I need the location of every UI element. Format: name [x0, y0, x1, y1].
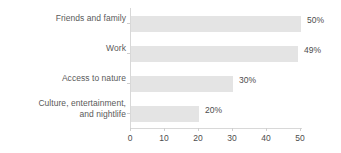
y-axis-tick: [127, 83, 130, 84]
y-axis-tick: [127, 113, 130, 114]
x-axis-tick-label: 10: [149, 133, 179, 144]
plot-area: Friends and family 50% Work 49% Access t…: [0, 0, 341, 153]
bar-row: Friends and family 50%: [0, 8, 341, 38]
bar-row: Culture, entertainment, and nightlife 20…: [0, 98, 341, 128]
x-axis-tick-label: 30: [217, 133, 247, 144]
bar-value-label: 30%: [239, 75, 256, 86]
x-axis-tick-label: 40: [251, 133, 281, 144]
x-axis-tick-mark: [232, 128, 233, 131]
x-axis-ticks: 0 10 20 30 40 50: [0, 128, 341, 153]
x-axis-tick-mark: [130, 128, 131, 131]
bar-value-label: 20%: [205, 105, 222, 116]
x-axis-tick-label: 50: [285, 133, 315, 144]
category-label: Culture, entertainment, and nightlife: [0, 98, 126, 119]
bar-row: Work 49%: [0, 38, 341, 68]
bar: [131, 76, 233, 92]
category-label: Friends and family: [0, 13, 126, 24]
bar-row: Access to nature 30%: [0, 68, 341, 98]
bar-value-label: 50%: [307, 15, 324, 26]
category-label: Work: [0, 43, 126, 54]
bar: [131, 16, 301, 32]
category-label-line1: Culture, entertainment,: [0, 98, 126, 109]
category-label-line1: Work: [0, 43, 126, 54]
category-label: Access to nature: [0, 73, 126, 84]
bar-value-label: 49%: [304, 45, 321, 56]
y-axis-tick: [127, 53, 130, 54]
x-axis-tick-mark: [198, 128, 199, 131]
x-axis-tick-mark: [266, 128, 267, 131]
x-axis-tick-label: 0: [115, 133, 145, 144]
bar: [131, 46, 298, 62]
category-label-line2: and nightlife: [0, 109, 126, 120]
bar-rows: Friends and family 50% Work 49% Access t…: [0, 8, 341, 128]
x-axis-tick-mark: [164, 128, 165, 131]
bar: [131, 106, 199, 122]
category-label-line1: Access to nature: [0, 73, 126, 84]
x-axis-tick-mark: [300, 128, 301, 131]
y-axis-tick: [127, 23, 130, 24]
horizontal-bar-chart: Friends and family 50% Work 49% Access t…: [0, 0, 341, 153]
x-axis-tick-label: 20: [183, 133, 213, 144]
category-label-line1: Friends and family: [0, 13, 126, 24]
